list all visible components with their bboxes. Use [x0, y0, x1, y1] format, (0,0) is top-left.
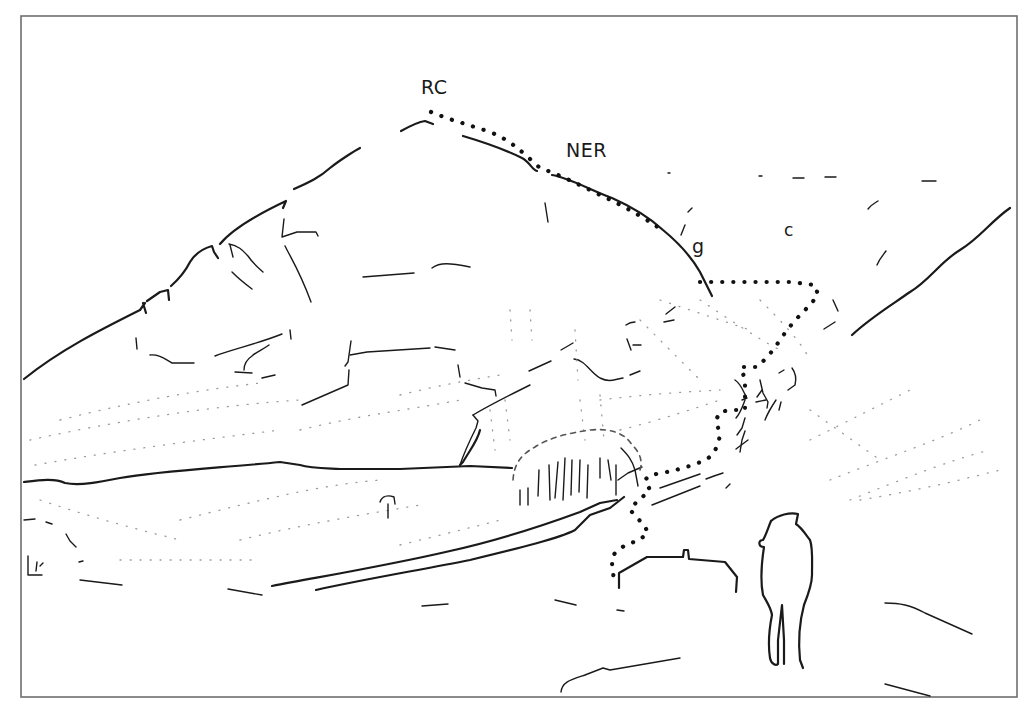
foreground-strokes [561, 603, 972, 696]
label-c: c [784, 222, 794, 239]
lower-hillside [24, 430, 624, 611]
stipple-shading [30, 300, 1000, 560]
route-dotted-line [431, 112, 818, 580]
sketch-drawing [0, 0, 1028, 719]
wall-outline [619, 550, 737, 592]
mountain-outline [24, 121, 712, 379]
horizon-dashes [668, 173, 936, 181]
drawing-frame [21, 16, 1017, 697]
rock-strokes [136, 203, 675, 465]
standing-person [759, 513, 812, 668]
label-g: g [692, 237, 705, 256]
label-ner: NER [566, 141, 607, 160]
label-rc: RC [421, 78, 448, 97]
gully-strokes [618, 368, 796, 505]
bush-patch [513, 430, 641, 505]
right-slope [681, 201, 1010, 335]
